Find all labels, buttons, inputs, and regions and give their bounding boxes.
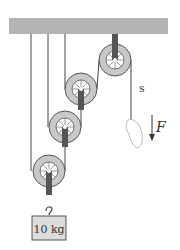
hand-icon [126,119,142,148]
pulley-diagram: 10 kg s F [0,0,180,250]
displacement-label: s [139,82,145,95]
force-arrow-icon [149,115,155,141]
fixed-pulley [99,42,131,76]
hook-icon [46,207,52,215]
force-label: F [155,119,167,135]
movable-pulley-3 [33,155,65,195]
movable-pulley-1 [65,73,97,110]
movable-pulley-2 [49,111,81,147]
ceiling [9,18,168,34]
mass-label: 10 kg [33,223,64,236]
